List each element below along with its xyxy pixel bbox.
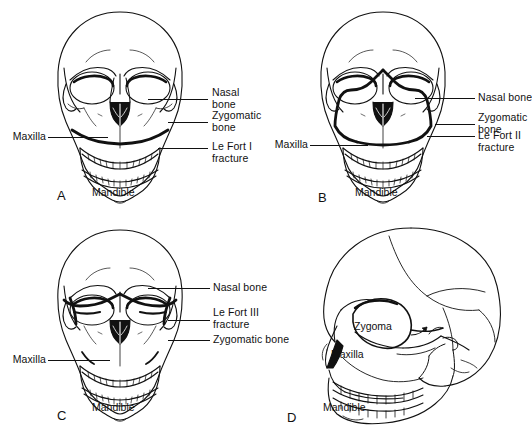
label-mandible-a: Mandible	[92, 186, 135, 198]
label-line: bone	[212, 122, 261, 134]
leader-zygoma-d	[409, 322, 433, 344]
label-nasal-bone-c: Nasal bone	[213, 282, 267, 294]
panel-c: Nasal bone Le Fort III fracture Zygomati…	[0, 216, 265, 433]
label-maxilla-a: Maxilla	[0, 131, 46, 143]
panel-letter-d: D	[287, 410, 296, 425]
label-maxilla-d: Maxilla	[331, 348, 364, 360]
label-line: fracture	[212, 153, 252, 165]
leader-zygomatic-a	[168, 122, 208, 123]
panel-letter-c: C	[57, 408, 66, 423]
label-mandible-b: Mandible	[355, 186, 398, 198]
skull-anterior-a	[40, 8, 200, 208]
label-mandible-d: Mandible	[323, 401, 366, 413]
label-line: Nasal bone	[478, 92, 532, 104]
panel-b: Nasal bone Zygomatic bone Le Fort II fra…	[265, 0, 530, 216]
panel-letter-a: A	[57, 188, 66, 203]
panel-letter-b: B	[318, 190, 327, 205]
label-line: Zygomatic	[478, 112, 527, 124]
label-maxilla-b: Maxilla	[262, 139, 308, 151]
leader-zygomatic-c	[168, 340, 210, 341]
leader-lefort-c	[168, 320, 210, 321]
label-line: Nasal	[212, 87, 239, 99]
label-line: Le Fort III	[213, 307, 259, 319]
label-line: Nasal bone	[213, 282, 267, 294]
leader-zygomatic-b	[435, 124, 475, 125]
label-line: Maxilla	[0, 131, 46, 143]
label-mandible-c: Mandible	[92, 401, 135, 413]
skull-anterior-c	[40, 226, 200, 426]
label-nasal-bone-b: Nasal bone	[478, 92, 532, 104]
leader-nasal-b	[415, 98, 475, 99]
leader-lefort-a	[158, 148, 208, 149]
leader-maxilla-b	[310, 145, 368, 146]
leader-nasal-c	[148, 288, 210, 289]
label-line: fracture	[478, 142, 521, 154]
leader-maxilla-a	[48, 137, 108, 138]
skull-anterior-b	[303, 8, 463, 208]
label-zygomatic-bone-a: Zygomatic bone	[212, 110, 261, 133]
label-zygoma-d: Zygoma	[354, 320, 392, 332]
label-maxilla-c: Maxilla	[0, 354, 46, 366]
label-line: Maxilla	[262, 139, 308, 151]
label-nasal-bone-a: Nasal bone	[212, 87, 239, 110]
label-line: Zygomatic	[212, 110, 261, 122]
panel-d: Zygoma Maxilla Mandible D	[265, 216, 530, 433]
label-line: Le Fort II	[478, 130, 521, 142]
label-le-fort-ii-fracture-b: Le Fort II fracture	[478, 130, 521, 153]
leader-nasal-a	[148, 99, 208, 100]
panel-a: Nasal bone Zygomatic bone Le Fort I frac…	[0, 0, 265, 216]
label-line: Le Fort I	[212, 141, 252, 153]
label-line: fracture	[213, 319, 259, 331]
label-le-fort-iii-fracture-c: Le Fort III fracture	[213, 307, 259, 330]
label-line: Maxilla	[0, 354, 46, 366]
leader-lefort-b	[427, 136, 475, 137]
leader-maxilla-c	[48, 360, 110, 361]
label-le-fort-i-fracture-a: Le Fort I fracture	[212, 141, 252, 164]
